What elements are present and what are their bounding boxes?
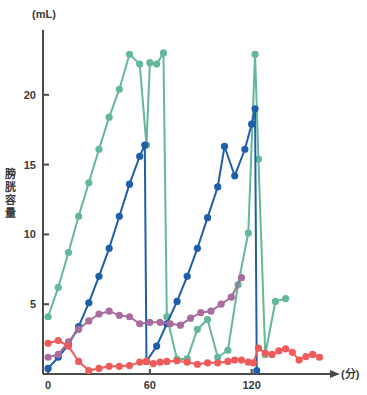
data-point-green	[85, 179, 92, 186]
data-point-purple	[146, 319, 153, 326]
data-point-red	[268, 351, 275, 358]
data-point-blue	[204, 214, 211, 221]
data-point-green	[106, 114, 113, 121]
data-point-red	[282, 345, 289, 352]
data-point-red	[255, 345, 262, 352]
data-point-green	[160, 49, 167, 56]
data-point-blue	[44, 365, 51, 372]
data-point-blue	[85, 299, 92, 306]
data-point-green	[75, 213, 82, 220]
series-green	[44, 49, 289, 363]
series-red	[44, 337, 323, 374]
chart-container: 膀 胱 容 量 5101520060120 (mL) (分)	[0, 0, 367, 395]
data-point-purple	[238, 274, 245, 281]
data-point-purple	[106, 308, 113, 315]
x-tick-label: 120	[242, 379, 260, 391]
data-point-blue	[231, 172, 238, 179]
data-point-green	[153, 61, 160, 68]
data-point-purple	[75, 326, 82, 333]
data-point-purple	[136, 320, 143, 327]
data-point-red	[75, 358, 82, 365]
data-point-purple	[85, 317, 92, 324]
data-point-purple	[156, 319, 163, 326]
data-point-blue	[116, 213, 123, 220]
data-point-red	[302, 353, 309, 360]
data-point-red	[250, 359, 257, 366]
ticks-layer: 5101520060120	[24, 89, 261, 391]
data-point-blue	[126, 181, 133, 188]
series-blue	[44, 105, 260, 374]
data-point-red	[136, 359, 143, 366]
data-point-green	[95, 146, 102, 153]
data-point-purple	[126, 313, 133, 320]
data-point-blue	[173, 298, 180, 305]
data-point-blue	[141, 141, 148, 148]
line-chart-plot: 5101520060120 (mL) (分)	[0, 0, 367, 395]
data-point-green	[251, 51, 258, 58]
data-point-red	[85, 367, 92, 374]
data-point-purple	[44, 354, 51, 361]
data-point-blue	[214, 183, 221, 190]
data-point-green	[146, 59, 153, 66]
data-point-purple	[167, 320, 174, 327]
data-point-red	[44, 340, 51, 347]
data-point-red	[214, 359, 221, 366]
data-point-red	[156, 359, 163, 366]
series-layer	[44, 49, 323, 374]
data-point-green	[126, 51, 133, 58]
data-point-blue	[184, 273, 191, 280]
y-tick-label: 10	[24, 228, 36, 240]
x-axis-arrow-icon	[330, 370, 340, 378]
data-point-red	[309, 351, 316, 358]
data-point-red	[289, 349, 296, 356]
data-point-blue	[221, 143, 228, 150]
data-point-red	[116, 363, 123, 370]
y-axis-title-char-3: 量	[3, 207, 18, 220]
y-axis-title-char-1: 胱	[3, 181, 18, 194]
data-point-green	[55, 284, 62, 291]
x-tick-label: 60	[144, 379, 156, 391]
data-point-blue	[95, 273, 102, 280]
data-point-green	[245, 229, 252, 236]
data-point-red	[150, 360, 157, 367]
data-point-blue	[106, 245, 113, 252]
data-point-red	[143, 358, 150, 365]
y-axis-unit-label: (mL)	[32, 8, 56, 20]
data-point-purple	[228, 294, 235, 301]
data-point-red	[106, 363, 113, 370]
y-axis-title-char-0: 膀	[3, 168, 18, 181]
x-axis-unit-label: (分)	[341, 367, 360, 380]
data-point-red	[262, 349, 269, 356]
data-point-green	[44, 313, 51, 320]
data-point-green	[116, 86, 123, 93]
data-point-purple	[55, 351, 62, 358]
data-point-blue	[194, 245, 201, 252]
data-point-purple	[116, 312, 123, 319]
data-point-green	[272, 298, 279, 305]
series-line-purple	[48, 278, 241, 358]
data-point-red	[163, 358, 170, 365]
data-point-red	[296, 356, 303, 363]
data-point-purple	[207, 308, 214, 315]
y-tick-label: 5	[30, 298, 36, 310]
data-point-red	[275, 347, 282, 354]
data-point-red	[173, 357, 180, 364]
data-point-green	[194, 326, 201, 333]
data-point-blue	[253, 367, 260, 374]
y-axis-title-char-2: 容	[3, 194, 18, 207]
data-point-blue	[251, 105, 258, 112]
data-point-red	[231, 356, 238, 363]
data-point-purple	[197, 309, 204, 316]
data-point-red	[184, 359, 191, 366]
x-tick-label: 0	[45, 379, 51, 391]
data-point-blue	[241, 146, 248, 153]
y-tick-label: 15	[24, 159, 36, 171]
y-tick-label: 20	[24, 89, 36, 101]
y-axis-title: 膀 胱 容 量	[3, 168, 18, 220]
axis-layer	[43, 30, 340, 378]
data-point-purple	[95, 310, 102, 317]
data-point-red	[95, 365, 102, 372]
data-point-purple	[187, 315, 194, 322]
data-point-green	[282, 295, 289, 302]
data-point-red	[55, 337, 62, 344]
